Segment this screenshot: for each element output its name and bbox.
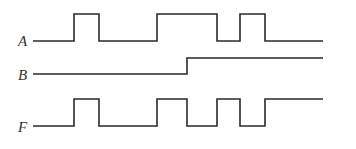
signal-a-waveform: [33, 14, 323, 41]
signal-f-label: F: [17, 119, 28, 135]
signal-b-label: B: [18, 67, 27, 83]
signal-f: F: [17, 99, 323, 135]
signal-a-label: A: [17, 33, 28, 49]
signal-f-waveform: [33, 99, 323, 126]
signal-b: B: [18, 58, 323, 83]
signal-b-waveform: [33, 58, 323, 74]
timing-diagram: A B F: [0, 0, 356, 149]
signal-a: A: [17, 14, 323, 49]
